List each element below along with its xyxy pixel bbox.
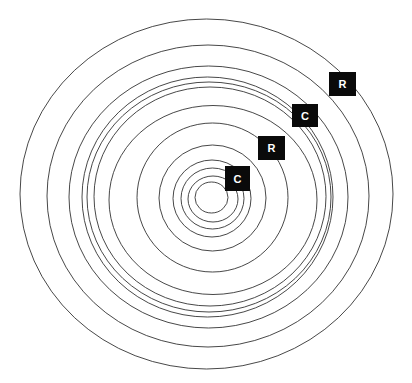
ring-9	[159, 145, 266, 251]
ring-6	[94, 87, 326, 306]
concentric-rings-diagram: CRCR	[0, 0, 412, 383]
ring-1	[20, 19, 393, 369]
ring-2	[47, 45, 369, 347]
label-r-4: R	[329, 72, 356, 96]
label-c-3: C	[292, 104, 318, 127]
label-text: C	[301, 110, 309, 122]
ring-7	[109, 106, 317, 295]
labels-group: CRCR	[225, 72, 356, 191]
rings-group	[20, 19, 393, 369]
label-c-1: C	[225, 166, 250, 191]
label-r-2: R	[258, 136, 285, 160]
label-text: R	[339, 78, 347, 90]
ring-13	[195, 182, 228, 213]
label-text: R	[268, 142, 276, 154]
label-text: C	[234, 173, 242, 185]
